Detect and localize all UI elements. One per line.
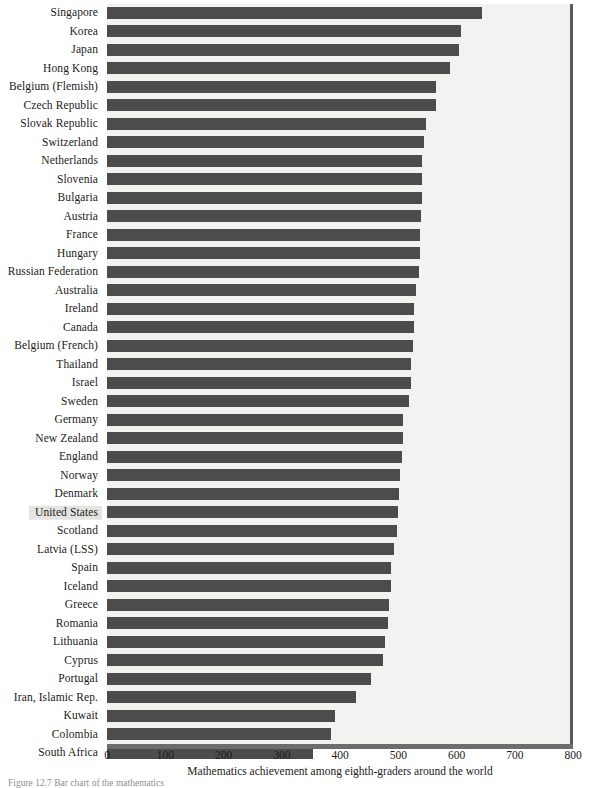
x-tick-label: 600 [448, 750, 465, 762]
bar [107, 210, 421, 222]
bar-track [107, 263, 573, 282]
bar-track [107, 485, 573, 504]
bar-track [107, 689, 573, 708]
bar-track [107, 522, 573, 541]
bar [107, 377, 411, 389]
category-label: Sweden [55, 395, 102, 410]
bar [107, 44, 459, 56]
category-label: Austria [57, 210, 102, 225]
bar-row: Greece [0, 596, 605, 615]
bar-track [107, 541, 573, 560]
bar [107, 432, 403, 444]
bar-track [107, 707, 573, 726]
bar-track [107, 78, 573, 97]
category-label: Portugal [52, 672, 102, 687]
bar-track [107, 578, 573, 597]
bar [107, 488, 399, 500]
bar-track [107, 411, 573, 430]
category-label: Romania [50, 617, 102, 632]
bar [107, 99, 436, 111]
category-label: Hong Kong [37, 62, 102, 77]
bar-row: Hong Kong [0, 60, 605, 79]
bar-row: New Zealand [0, 430, 605, 449]
category-label: Kuwait [58, 709, 102, 724]
category-label: Lithuania [47, 635, 102, 650]
bar-track [107, 448, 573, 467]
bar [107, 173, 422, 185]
category-label: Belgium (Flemish) [3, 80, 102, 95]
bar-row: Russian Federation [0, 263, 605, 282]
bar-track [107, 319, 573, 338]
bar-row: Scotland [0, 522, 605, 541]
bar [107, 414, 403, 426]
bar-track [107, 115, 573, 134]
bar-row: Lithuania [0, 633, 605, 652]
bar-track [107, 374, 573, 393]
x-axis-tick-labels: 0100200300400500600700800 [0, 750, 605, 766]
bar-row: Singapore [0, 4, 605, 23]
bar [107, 562, 391, 574]
bar-row: Korea [0, 23, 605, 42]
bar-track [107, 171, 573, 190]
category-label: Japan [65, 43, 102, 58]
bar-row: Colombia [0, 726, 605, 745]
bar-row: Canada [0, 319, 605, 338]
category-label: New Zealand [29, 432, 102, 447]
bar [107, 525, 397, 537]
bar-track [107, 97, 573, 116]
category-label: Belgium (French) [8, 339, 102, 354]
bar-row: Israel [0, 374, 605, 393]
bar [107, 247, 420, 259]
x-axis-title: Mathematics achievement among eighth-gra… [107, 765, 573, 778]
bar [107, 358, 411, 370]
bar [107, 340, 413, 352]
bar-track [107, 615, 573, 634]
bar-track [107, 337, 573, 356]
bar [107, 451, 402, 463]
bar [107, 728, 331, 740]
category-label: France [60, 228, 102, 243]
x-tick-label: 100 [157, 750, 174, 762]
bar-track [107, 670, 573, 689]
bar-row: Australia [0, 282, 605, 301]
bar-row: Bulgaria [0, 189, 605, 208]
bar [107, 599, 389, 611]
category-label: Latvia (LSS) [31, 543, 102, 558]
x-tick-label: 400 [331, 750, 348, 762]
category-label: Greece [59, 598, 102, 613]
bar-row: Iran, Islamic Rep. [0, 689, 605, 708]
bar-track [107, 393, 573, 412]
bar [107, 266, 419, 278]
category-label: Scotland [51, 524, 102, 539]
bar [107, 710, 335, 722]
category-label: Czech Republic [17, 99, 102, 114]
bar [107, 7, 482, 19]
bar-row: Sweden [0, 393, 605, 412]
bar [107, 25, 461, 37]
category-label: Canada [57, 321, 102, 336]
bar-track [107, 152, 573, 171]
category-label: Singapore [44, 6, 102, 21]
bar-row: Netherlands [0, 152, 605, 171]
bar [107, 654, 383, 666]
bar [107, 118, 426, 130]
bar [107, 284, 416, 296]
bar-track [107, 282, 573, 301]
bar-track [107, 245, 573, 264]
bar-track [107, 300, 573, 319]
bar-row: Hungary [0, 245, 605, 264]
bar [107, 136, 424, 148]
category-label: England [53, 450, 102, 465]
bar [107, 506, 398, 518]
x-tick-label: 200 [215, 750, 232, 762]
bar-row: England [0, 448, 605, 467]
bar [107, 543, 394, 555]
bar [107, 636, 385, 648]
bar-row: Cyprus [0, 652, 605, 671]
bar-track [107, 41, 573, 60]
bar-row: Norway [0, 467, 605, 486]
bar [107, 395, 409, 407]
bar-track [107, 60, 573, 79]
bar-track [107, 23, 573, 42]
x-tick-label: 800 [564, 750, 581, 762]
